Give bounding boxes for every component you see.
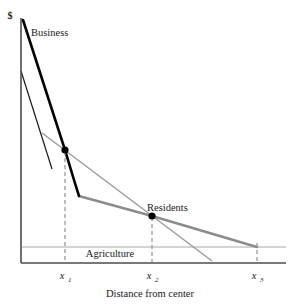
x-tick-x3-sub: 3 [259,276,264,284]
figure-background [0,0,293,306]
y-axis-label: $ [8,10,13,21]
curve-label-agriculture: Agriculture [86,248,135,259]
x-tick-x3-base: x [251,270,257,281]
curve-label-residents: Residents [147,202,188,213]
x-tick-x1-base: x [59,270,65,281]
curve-label-business: Business [31,27,68,38]
x-tick-x2-sub: 2 [155,276,159,284]
x-tick-x2-base: x [146,270,152,281]
x-tick-x1-sub: 1 [68,276,72,284]
intersection-dot-x1 [61,146,68,153]
intersection-dot-x2 [148,212,155,219]
x-axis-label: Distance from center [106,288,195,299]
bid-rent-diagram: $ Business Residents Agriculture x 1 x 2… [0,0,293,306]
